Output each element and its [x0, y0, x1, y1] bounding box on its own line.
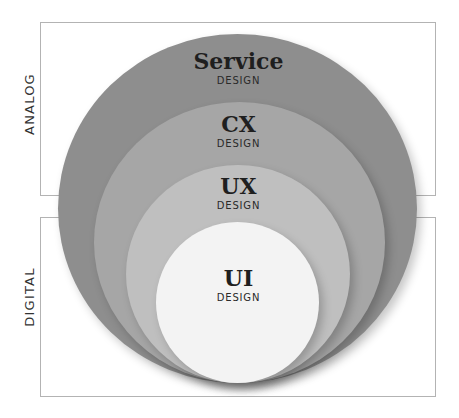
service-subtitle: DESIGN — [9, 75, 459, 86]
ux-subtitle: DESIGN — [9, 200, 459, 211]
ui-design-label: UI DESIGN — [9, 267, 459, 303]
cx-design-label: CX DESIGN — [9, 113, 459, 149]
cx-subtitle: DESIGN — [9, 138, 459, 149]
service-design-label: Service DESIGN — [9, 50, 459, 86]
ux-design-label: UX DESIGN — [9, 175, 459, 211]
ui-subtitle: DESIGN — [9, 292, 459, 303]
service-title: Service — [9, 50, 459, 72]
ui-title: UI — [9, 267, 459, 289]
ux-title: UX — [9, 175, 459, 197]
cx-title: CX — [9, 113, 459, 135]
